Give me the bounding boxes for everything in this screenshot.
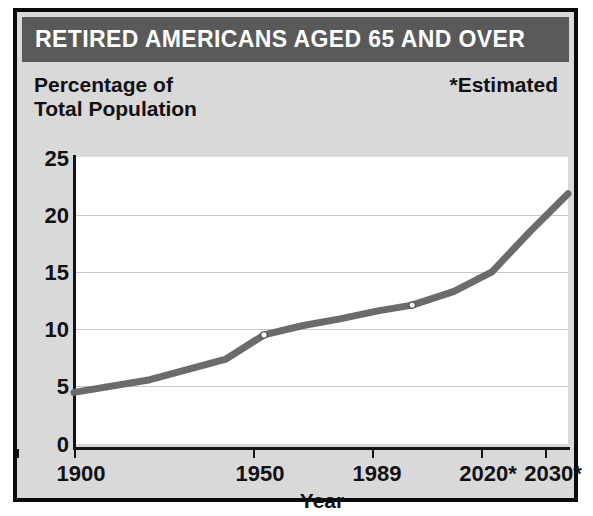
gridline-20 — [74, 215, 568, 216]
y-tick-15: 15 — [23, 260, 69, 286]
x-tick-mark-2020 — [481, 449, 483, 458]
gridline-15 — [74, 272, 568, 273]
plot-wrapper: 25 20 15 10 5 0 1900 1950 1989 2020* 203… — [17, 12, 574, 498]
x-tick-mark-1900 — [74, 449, 76, 458]
y-tick-5: 5 — [23, 374, 69, 400]
gridline-5 — [74, 386, 568, 387]
x-axis-title: Year — [300, 489, 344, 513]
y-tick-25: 25 — [23, 146, 69, 172]
x-tick-mark-1989 — [17, 449, 19, 458]
gridline-10 — [74, 329, 568, 330]
y-axis-line — [73, 155, 76, 450]
x-tick-mark-1989b — [372, 449, 374, 458]
y-tick-20: 20 — [23, 203, 69, 229]
x-tick-mark-2030 — [545, 449, 547, 458]
x-tick-1989: 1989 — [353, 461, 402, 487]
y-tick-0: 0 — [23, 432, 69, 458]
x-axis-line — [73, 447, 570, 450]
x-tick-1900: 1900 — [57, 461, 106, 487]
chart-figure: RETIRED AMERICANS AGED 65 AND OVER Perce… — [13, 8, 578, 502]
y-axis-tick-labels: 25 20 15 10 5 0 — [17, 12, 69, 498]
x-tick-2030: 2030* — [524, 461, 582, 487]
x-tick-mark-1950 — [253, 449, 255, 458]
plot-area — [74, 157, 568, 444]
y-tick-10: 10 — [23, 317, 69, 343]
x-tick-1950: 1950 — [236, 461, 285, 487]
x-tick-2020: 2020* — [459, 461, 517, 487]
